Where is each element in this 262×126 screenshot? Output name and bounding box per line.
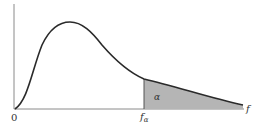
density-curve xyxy=(15,22,243,109)
x-axis-label: f xyxy=(245,103,252,114)
tail-area-label: α xyxy=(154,92,160,102)
critical-value-subscript: α xyxy=(144,116,149,124)
critical-value-label: fα xyxy=(139,111,149,124)
f-distribution-diagram: 0 fα f α xyxy=(0,0,262,126)
origin-label: 0 xyxy=(11,112,17,123)
